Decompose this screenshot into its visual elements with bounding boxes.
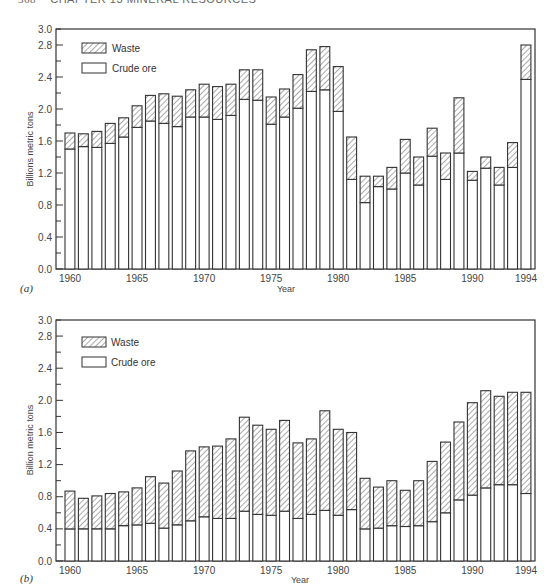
crude-ore-segment xyxy=(414,185,424,269)
waste-segment xyxy=(400,490,410,526)
waste-segment xyxy=(199,447,209,517)
bar-1973 xyxy=(239,417,249,561)
bar-1979 xyxy=(320,47,330,269)
crude-ore-segment xyxy=(521,79,531,269)
bar-1988 xyxy=(441,442,451,561)
legend-crude-swatch xyxy=(82,357,106,367)
waste-segment xyxy=(253,425,263,514)
waste-segment xyxy=(159,483,169,528)
bar-1985 xyxy=(400,139,410,269)
waste-segment xyxy=(494,396,504,484)
x-tick-label: 1994 xyxy=(515,273,538,284)
bar-1965 xyxy=(132,106,142,269)
bar-1963 xyxy=(105,494,115,562)
crude-ore-segment xyxy=(333,111,343,269)
bar-1962 xyxy=(92,496,102,561)
x-tick-label: 1990 xyxy=(461,565,484,576)
legend-waste-label: Waste xyxy=(111,337,139,348)
crude-ore-segment xyxy=(320,510,330,561)
crude-ore-segment xyxy=(266,124,276,269)
waste-segment xyxy=(454,422,464,500)
crude-ore-segment xyxy=(226,115,236,269)
y-tick-label: 2.8 xyxy=(38,331,52,342)
chart-b: 0.00.40.81.21.62.02.42.83.0 196019651970… xyxy=(20,315,538,586)
x-tick-label: 1965 xyxy=(126,565,149,576)
waste-segment xyxy=(521,45,531,79)
waste-segment xyxy=(65,133,75,149)
legend-waste-swatch xyxy=(82,337,106,347)
waste-segment xyxy=(306,50,316,92)
bar-1986 xyxy=(414,481,424,561)
crude-ore-segment xyxy=(494,185,504,269)
crude-ore-segment xyxy=(199,517,209,561)
chart-a-yaxis: 0.00.40.81.21.62.02.42.83.0 xyxy=(38,24,63,275)
y-tick-label: 1.6 xyxy=(38,136,52,147)
x-tick-label: 1970 xyxy=(193,565,216,576)
waste-segment xyxy=(508,392,518,484)
bar-1969 xyxy=(186,451,196,561)
waste-segment xyxy=(105,123,115,143)
chart-b-panel-label: (b) xyxy=(20,572,33,585)
bar-1983 xyxy=(374,487,384,561)
waste-segment xyxy=(146,95,156,121)
charts-figure: 0.00.40.81.21.62.02.42.83.0 196019651970… xyxy=(0,0,557,587)
waste-segment xyxy=(280,420,290,511)
crude-ore-segment xyxy=(239,99,249,269)
waste-segment xyxy=(65,491,75,529)
bar-1985 xyxy=(400,490,410,561)
bar-1965 xyxy=(132,488,142,561)
crude-ore-segment xyxy=(159,528,169,561)
x-tick-label: 1960 xyxy=(59,273,82,284)
waste-segment xyxy=(360,478,370,529)
crude-ore-segment xyxy=(146,121,156,269)
waste-segment xyxy=(481,157,491,168)
chart-b-bars xyxy=(65,391,531,561)
crude-ore-segment xyxy=(280,117,290,269)
bar-1986 xyxy=(414,157,424,269)
bar-1975 xyxy=(266,429,276,561)
y-tick-label: 0.4 xyxy=(38,232,52,243)
bar-1992 xyxy=(494,167,504,269)
crude-ore-segment xyxy=(454,153,464,269)
waste-segment xyxy=(441,442,451,513)
x-tick-label: 1960 xyxy=(59,565,82,576)
waste-segment xyxy=(186,90,196,117)
crude-ore-segment xyxy=(481,488,491,561)
waste-segment xyxy=(132,488,142,525)
bar-1983 xyxy=(374,176,384,269)
bar-1971 xyxy=(213,446,223,561)
bar-1989 xyxy=(454,98,464,269)
x-tick-label: 1985 xyxy=(394,565,417,576)
crude-ore-segment xyxy=(427,156,437,269)
crude-ore-segment xyxy=(199,117,209,269)
bar-1972 xyxy=(226,84,236,269)
crude-ore-segment xyxy=(467,180,477,269)
legend-crude-swatch xyxy=(82,63,106,73)
x-tick-label: 1965 xyxy=(126,273,149,284)
crude-ore-segment xyxy=(132,525,142,561)
bar-1982 xyxy=(360,478,370,561)
waste-segment xyxy=(280,89,290,117)
crude-ore-segment xyxy=(508,485,518,561)
crude-ore-segment xyxy=(320,90,330,269)
crude-ore-segment xyxy=(213,518,223,561)
bar-1973 xyxy=(239,70,249,269)
waste-segment xyxy=(306,439,316,515)
crude-ore-segment xyxy=(132,127,142,269)
bar-1990 xyxy=(467,171,477,269)
waste-segment xyxy=(333,429,343,515)
chart-a: 0.00.40.81.21.62.02.42.83.0 196019651970… xyxy=(20,24,538,296)
bar-1964 xyxy=(119,118,129,269)
waste-segment xyxy=(159,94,169,124)
bar-1971 xyxy=(213,87,223,269)
bar-1977 xyxy=(293,75,303,269)
waste-segment xyxy=(239,70,249,100)
crude-ore-segment xyxy=(494,485,504,561)
waste-segment xyxy=(293,443,303,519)
y-tick-label: 1.2 xyxy=(38,168,52,179)
bar-1984 xyxy=(387,481,397,561)
crude-ore-segment xyxy=(213,119,223,269)
legend-crude-label: Crude ore xyxy=(112,63,157,74)
y-tick-label: 1.6 xyxy=(38,427,52,438)
crude-ore-segment xyxy=(427,522,437,561)
